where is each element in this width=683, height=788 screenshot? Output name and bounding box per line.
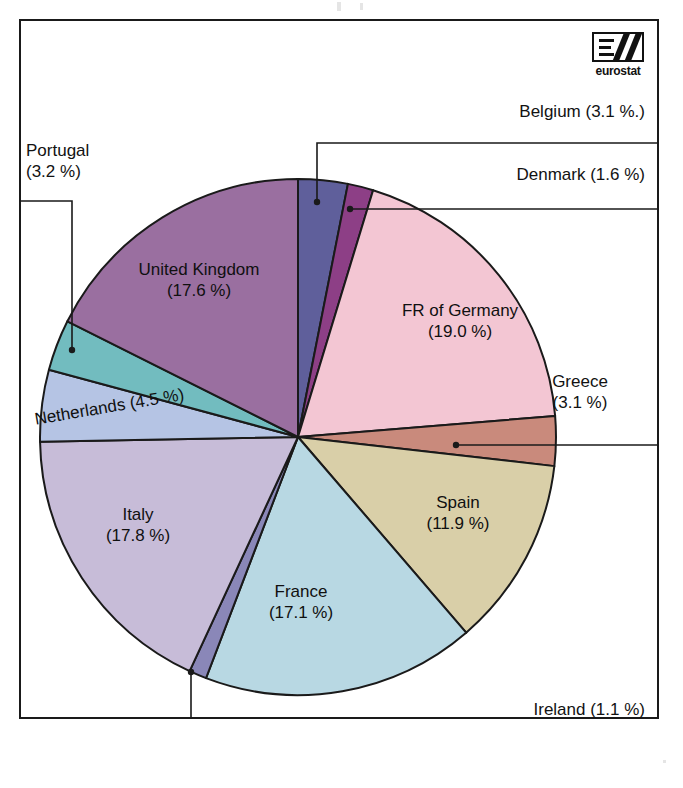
pie-label-france-line2: (17.1 %) [216, 602, 386, 623]
pie-label-portugal-line1: Portugal [26, 140, 176, 161]
pie-label-italy-line2: (17.8 %) [68, 525, 208, 546]
pie-label-greece-line1: Greece [520, 371, 640, 392]
pie-label-portugal-line2: (3.2 %) [26, 161, 176, 182]
pie-label-spain-line1: Spain [383, 492, 533, 513]
pie-label-italy-line1: Italy [68, 504, 208, 525]
leader-dot-greece [453, 442, 459, 448]
pie-label-spain-line2: (11.9 %) [383, 513, 533, 534]
leader-dot-denmark [347, 206, 353, 212]
pie-label-france-line1: France [216, 581, 386, 602]
eurostat-pie-figure: eurostat Belgium (3.1 %.) Denmark (1.6 %… [0, 0, 683, 788]
scan-artifact [337, 2, 341, 11]
pie-label-denmark: Denmark (1.6 %) [395, 164, 645, 185]
pie-label-germany-line1: FR of Germany [372, 300, 548, 321]
scan-artifact [663, 760, 666, 763]
pie-label-greece-line2: (3.1 %) [520, 392, 640, 413]
pie-label-germany-line2: (19.0 %) [372, 321, 548, 342]
pie-label-united-kingdom-line2: (17.6 %) [106, 280, 292, 301]
pie-label-belgium: Belgium (3.1 %.) [395, 101, 645, 122]
pie-label-united-kingdom-line1: United Kingdom [106, 259, 292, 280]
scan-artifact [360, 3, 363, 10]
pie-label-ireland: Ireland (1.1 %) [395, 699, 645, 720]
leader-dot-ireland [188, 669, 194, 675]
leader-dot-portugal [69, 347, 75, 353]
leader-dot-belgium [314, 199, 320, 205]
